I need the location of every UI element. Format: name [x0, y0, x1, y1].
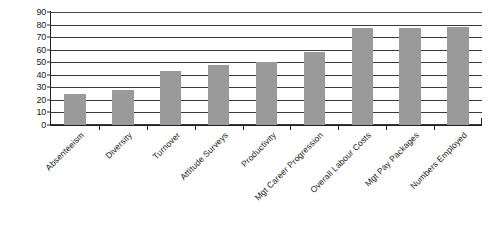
y-axis-tick-label: 40	[36, 70, 46, 79]
y-axis-tick-mark	[47, 37, 51, 38]
x-axis-category-label-text: Turnover	[150, 130, 181, 161]
y-axis-tick-label: 20	[36, 95, 46, 104]
y-axis-tick-label: 70	[36, 33, 46, 42]
y-axis-tick-mark	[47, 49, 51, 50]
x-axis-category-labels: AbsenteeismDiversityTurnoverAttitude Sur…	[0, 130, 491, 230]
x-axis-category-label-text: Productivity	[239, 130, 278, 169]
y-axis-tick-mark	[47, 24, 51, 25]
bar-chart: 0102030405060708090 AbsenteeismDiversity…	[0, 0, 491, 232]
x-axis-category-label: Productivity	[239, 130, 278, 169]
y-axis-tick-label: 30	[36, 83, 46, 92]
y-axis-tick-mark	[47, 12, 51, 13]
x-axis-category-label-text: Diversity	[103, 130, 134, 161]
bar	[399, 28, 421, 125]
x-axis-category-label: Attitude Surveys	[178, 130, 230, 182]
bar	[160, 71, 182, 125]
bar	[208, 65, 230, 125]
y-axis-tick-mark	[47, 112, 51, 113]
bar	[352, 28, 374, 125]
y-axis-tick-label: 90	[36, 8, 46, 17]
y-axis-tick-mark	[47, 74, 51, 75]
y-axis-tick-mark	[47, 99, 51, 100]
bar	[304, 52, 326, 125]
bar	[447, 27, 469, 125]
y-axis-tick-label: 60	[36, 45, 46, 54]
y-axis-tick-mark	[47, 87, 51, 88]
y-axis-tick-mark	[47, 125, 51, 126]
x-axis-category-label: Diversity	[103, 130, 134, 161]
bars-layer	[51, 12, 482, 125]
x-axis-category-label-text: Absenteeism	[43, 130, 86, 173]
bar	[64, 94, 86, 125]
x-axis-category-label: Absenteeism	[43, 130, 86, 173]
plot-wrapper: 0102030405060708090 AbsenteeismDiversity…	[0, 0, 491, 232]
y-axis-tick-label: 50	[36, 58, 46, 67]
y-axis-tick-labels: 0102030405060708090	[24, 12, 46, 125]
y-axis-tick-mark	[47, 62, 51, 63]
bar	[256, 62, 278, 125]
y-axis-tick-label: 0	[41, 121, 46, 130]
y-axis-tick-label: 80	[36, 20, 46, 29]
x-axis-category-label-text: Attitude Surveys	[178, 130, 230, 182]
x-axis-category-label: Turnover	[150, 130, 181, 161]
y-axis-tick-label: 10	[36, 108, 46, 117]
bar	[112, 90, 134, 125]
